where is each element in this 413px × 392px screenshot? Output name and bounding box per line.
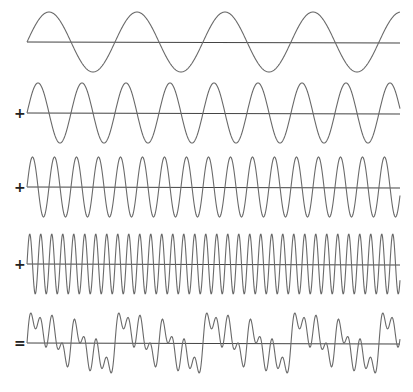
baseline-axis-1 [27, 113, 400, 114]
plus-operator-1: + [14, 106, 26, 120]
plus-operator-3: + [14, 257, 26, 271]
baseline-axis-0 [27, 42, 400, 43]
equals-operator: = [14, 336, 26, 350]
waveform-diagram [0, 0, 413, 392]
plus-operator-2: + [14, 180, 26, 194]
